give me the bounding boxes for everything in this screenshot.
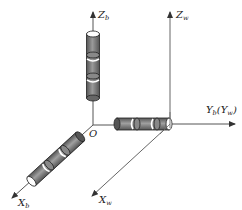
vertical-cylinder [87, 31, 100, 101]
y-axis-label: Yb(Yw) [206, 104, 237, 117]
x-world-label: Xw [98, 194, 112, 207]
origin-label: O [89, 128, 97, 139]
x-body-label: Xb [17, 197, 29, 210]
z-world-label: Zw [175, 9, 189, 22]
x-world-axis [92, 128, 166, 196]
z-body-label: Zb [97, 9, 109, 22]
diagonal-cylinder [25, 130, 86, 187]
horizontal-cylinder [114, 118, 172, 130]
coordinate-frame-diagram: Zb Zw Yb(Yw) Xw Xb O [0, 0, 242, 210]
